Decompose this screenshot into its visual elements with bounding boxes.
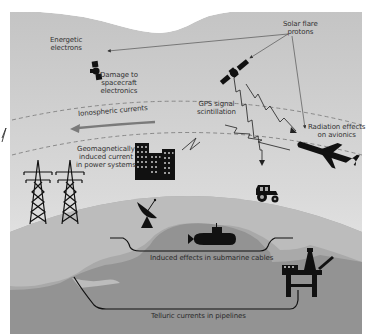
label-line: Geomagnetically — [76, 145, 136, 153]
label-line: Radiation effects — [308, 123, 365, 131]
label-line: on avionics — [308, 131, 365, 139]
label-gps-scintillation: GPS signal scintillation — [197, 100, 236, 116]
label-line: electronics — [100, 87, 138, 95]
label-line: induced current — [76, 153, 136, 161]
label-line: Damage to — [100, 71, 138, 79]
label-submarine-cables: Induced effects in submarine cables — [150, 254, 273, 262]
label-radiation-avionics: Radiation effects on avionics — [308, 123, 365, 139]
label-line: Energetic — [50, 36, 82, 44]
label-line: scintillation — [197, 108, 236, 116]
label-line: electrons — [50, 44, 82, 52]
space-weather-diagram: Energetic electrons Solar flare protons … — [0, 0, 380, 336]
label-line: GPS signal — [197, 100, 236, 108]
label-line: Solar flare — [283, 20, 318, 28]
label-gic-power: Geomagnetically induced current in power… — [76, 145, 136, 169]
label-line: protons — [283, 28, 318, 36]
label-line: Telluric currents in pipelines — [151, 312, 246, 320]
label-energetic-electrons: Energetic electrons — [50, 36, 82, 52]
label-telluric-pipelines: Telluric currents in pipelines — [151, 312, 246, 320]
label-spacecraft-damage: Damage to spacecraft electronics — [100, 71, 138, 95]
label-line: spacecraft — [100, 79, 138, 87]
label-line: in power systems — [76, 161, 136, 169]
label-line: Induced effects in submarine cables — [150, 254, 273, 262]
label-solar-flare-protons: Solar flare protons — [283, 20, 318, 36]
